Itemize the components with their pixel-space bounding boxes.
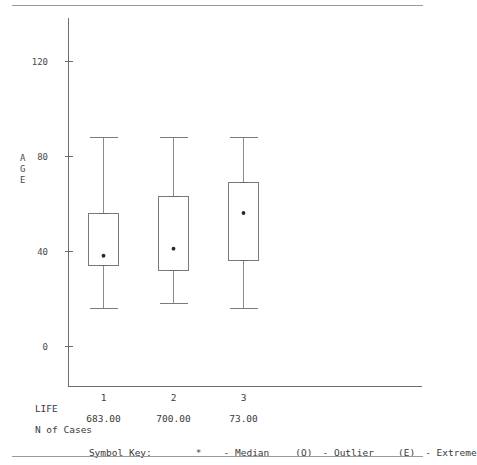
footer-ncases-value: 73.00: [204, 413, 284, 424]
y-axis-ticks: 04080120: [32, 57, 73, 352]
footer-ncases-label: N of Cases: [35, 424, 92, 435]
median-marker: [242, 211, 246, 215]
y-tick-label: 40: [37, 247, 48, 257]
box-rect: [229, 182, 259, 260]
footer-life-value: 3: [204, 392, 284, 403]
boxplot-figure: 04080120 AGE 123: [0, 0, 435, 392]
median-marker: [172, 247, 176, 251]
y-tick-label: 0: [43, 342, 48, 352]
boxplot-group: [159, 137, 189, 303]
y-axis-title-char: E: [20, 175, 25, 185]
y-axis-title-char: G: [20, 164, 25, 174]
bottom-divider-rule: [12, 456, 423, 457]
boxplot-group: [229, 137, 259, 308]
y-tick-label: 120: [32, 57, 48, 67]
footer-ncases-value: 683.00: [64, 413, 144, 424]
footer-life-value: 1: [64, 392, 144, 403]
box-rect: [159, 196, 189, 270]
y-tick-label: 80: [37, 152, 48, 162]
y-axis-title-char: A: [20, 153, 26, 163]
extreme-key-text: - Extreme: [425, 447, 476, 458]
median-marker: [102, 254, 106, 258]
y-axis-title: AGE: [20, 153, 26, 185]
boxplot-group: [89, 137, 119, 308]
footer-life-value: 2: [134, 392, 214, 403]
footer-row-symbol-key: Symbol Key:*- Median(O)- Outlier(E)- Ext…: [66, 436, 477, 465]
boxplot-series: [89, 137, 259, 308]
footer-ncases-value: 700.00: [134, 413, 214, 424]
